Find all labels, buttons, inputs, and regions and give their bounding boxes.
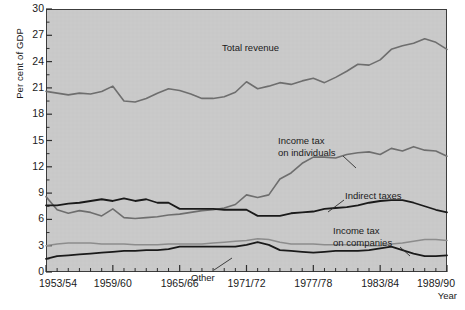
revenue-composition-chart: Per cent of GDP Year 036912151821242730 … bbox=[0, 0, 465, 310]
series-label-indirect-taxes: Indirect taxes bbox=[345, 190, 402, 202]
series-label-income-tax-individuals: Income taxon individuals bbox=[278, 135, 336, 159]
series-label-line: Total revenue bbox=[222, 42, 279, 54]
series-label-line: Income tax bbox=[278, 135, 336, 147]
series-label-line: Indirect taxes bbox=[345, 190, 402, 202]
series-label-line: Income tax bbox=[333, 225, 392, 237]
series-label-line: Other bbox=[191, 272, 215, 284]
series-label-income-tax-companies: Income taxon companies bbox=[333, 225, 392, 249]
series-label-total-revenue: Total revenue bbox=[222, 42, 279, 54]
series-label-line: on companies bbox=[333, 237, 392, 249]
series-label-other: Other bbox=[191, 272, 215, 284]
series-label-line: on individuals bbox=[278, 147, 336, 159]
